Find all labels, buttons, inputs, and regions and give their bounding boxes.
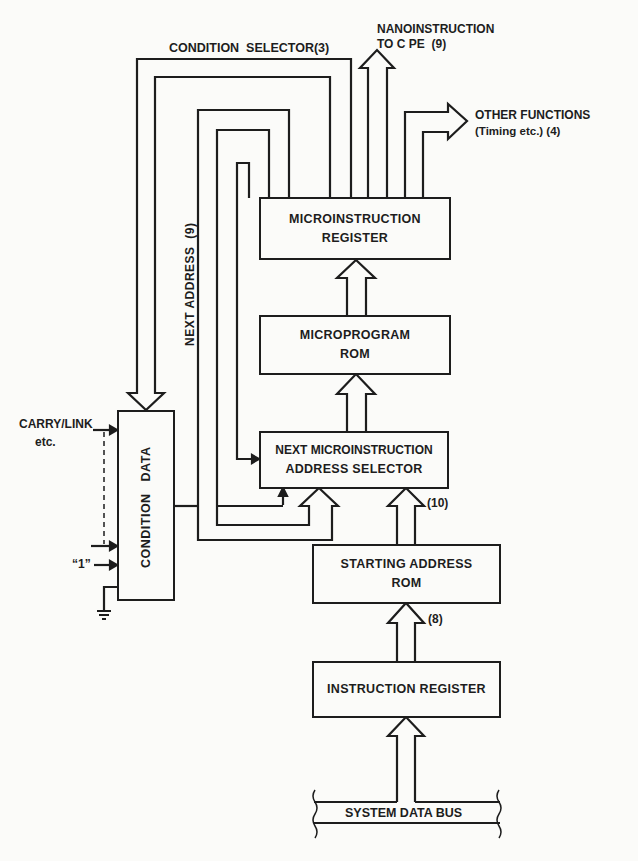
next-address-selector: NEXT MICROINSTRUCTION ADDRESS SELECTOR <box>259 431 449 489</box>
next-address-line-inner <box>237 163 254 459</box>
carry-link-label-line1: CARRY/LINK <box>19 417 93 431</box>
starting-address-rom: STARTING ADDRESS ROM <box>312 544 501 604</box>
condition-selector-label: CONDITION SELECTOR(3) <box>169 41 329 55</box>
other-functions-label-line2: (Timing etc.) (4) <box>475 124 560 138</box>
ir-to-sarom-arrow <box>388 603 424 662</box>
one-input-label: “1” <box>72 557 91 571</box>
microinstruction-register: MICROINSTRUCTION REGISTER <box>259 197 451 260</box>
selector-left-wide-arrow <box>300 488 338 514</box>
sarom-to-selector-arrow <box>388 488 424 545</box>
next-address-label: NEXT ADDRESS (9) <box>183 223 197 346</box>
other-functions-label-line1: OTHER FUNCTIONS <box>475 108 590 122</box>
carry-link-label-line2: etc. <box>35 435 56 449</box>
instruction-register: INSTRUCTION REGISTER <box>312 661 501 718</box>
other-functions-arrow <box>405 104 467 198</box>
bus-to-ir-arrow <box>388 717 424 802</box>
ir-label: INSTRUCTION REGISTER <box>327 680 486 699</box>
nanoinstruction-label-line1: NANOINSTRUCTION <box>377 22 494 36</box>
selector-label-line1: NEXT MICROINSTRUCTION <box>275 441 432 460</box>
rom-to-mir-arrow <box>337 260 375 316</box>
ground-symbol <box>97 587 117 619</box>
width-10-label: (10) <box>427 496 448 510</box>
sarom-label-line1: STARTING ADDRESS <box>341 555 473 574</box>
selector-label-line2: ADDRESS SELECTOR <box>285 460 422 479</box>
nanoinstruction-label-line2: TO C PE (9) <box>377 37 446 51</box>
nanoinstruction-arrow <box>360 50 394 198</box>
rom-label-line2: ROM <box>340 345 370 364</box>
selector-to-rom-arrow <box>337 374 375 432</box>
mir-label-line1: MICROINSTRUCTION <box>289 210 421 229</box>
rom-label-line1: MICROPROGRAM <box>300 326 411 345</box>
system-data-bus-label: SYSTEM DATA BUS <box>345 806 462 820</box>
width-8-label: (8) <box>428 612 443 626</box>
sarom-label-line2: ROM <box>391 574 421 593</box>
mir-label-line2: REGISTER <box>322 229 388 248</box>
microprogram-rom: MICROPROGRAM ROM <box>259 315 451 375</box>
condition-data-label: CONDITION DATA <box>139 447 153 568</box>
